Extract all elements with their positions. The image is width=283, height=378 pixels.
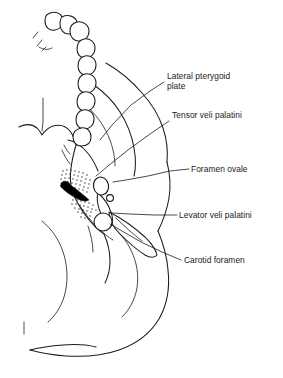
carotid-foramen-marker [94,213,112,231]
label-lateral-pterygoid-plate-line1: Lateral pterygoid [167,71,231,81]
tooth-molar-2 [77,92,95,111]
occipital-inner-curve-right [119,233,138,317]
occipital-inner-curve-left [42,221,67,322]
anatomical-figure: Lateral pterygoid plate Tensor veli pala… [0,0,283,378]
tooth-molar-3 [76,110,94,129]
tooth-molar-1 [78,74,96,93]
label-carotid-foramen: Carotid foramen [184,255,245,265]
tooth-premolar-1 [77,39,95,58]
hard-palate-arch [19,125,76,145]
pterygoid-notch [64,145,70,154]
tooth-molar-4 [73,128,91,146]
levator-veli-palatini-stipple [71,199,96,219]
label-tensor-veli-palatini: Tensor veli palatini [172,110,242,120]
upper-left-fragment-2 [37,40,42,46]
small-foramen-spinosum-marker [107,195,114,202]
skull-base-drawing: Lateral pterygoid plate Tensor veli pala… [0,0,283,378]
leader-levator-veli-palatini [112,213,177,215]
basilar-region-left-edge [70,145,76,190]
leader-tensor-veli-palatini [96,121,169,176]
tooth-canine [70,22,89,41]
leader-foramen-ovale [113,169,189,182]
tooth-premolar-2 [78,56,96,75]
leader-lines-group [96,82,189,260]
foramen-ovale-marker [92,176,110,197]
labels-group: Lateral pterygoid plate Tensor veli pala… [167,71,252,265]
upper-left-fragment-1 [33,32,38,38]
central-descending-contour [104,234,110,283]
mastoid-hint [88,226,93,252]
midline-suture-line [42,98,43,131]
occipital-outer-contour [30,231,169,356]
occipital-bottom-edge [30,345,96,350]
label-foramen-ovale: Foramen ovale [191,164,248,174]
label-lateral-pterygoid-plate-line2: plate [167,81,186,91]
leader-carotid-foramen [110,224,181,260]
label-levator-veli-palatini: Levator veli palatini [179,210,252,220]
lateral-wall-outer-curve [106,63,167,162]
